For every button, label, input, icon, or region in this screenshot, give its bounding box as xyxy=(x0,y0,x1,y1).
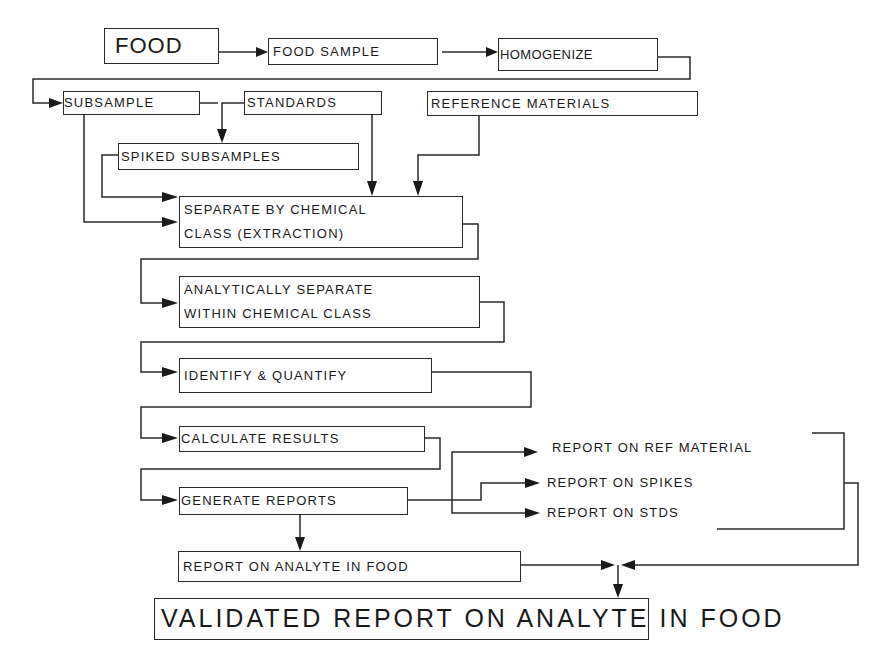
arrow-head-icon xyxy=(256,47,268,57)
arrow-head-icon xyxy=(49,98,63,108)
node-label: FOOD SAMPLE xyxy=(273,43,437,61)
node-label: REPORT ON ANALYTE IN FOOD xyxy=(183,558,520,576)
arrow-head-icon xyxy=(162,217,178,227)
node-food-sample: FOOD SAMPLE xyxy=(268,38,438,65)
arrow-head-icon xyxy=(162,495,178,505)
node-subsample: SUBSAMPLE xyxy=(63,91,200,115)
node-label-line2: CLASS (EXTRACTION) xyxy=(184,225,462,243)
node-label: STANDARDS xyxy=(247,94,381,112)
node-label: SUBSAMPLE xyxy=(64,94,199,112)
arrow-head-icon xyxy=(162,298,178,308)
node-label: HOMOGENIZE xyxy=(500,46,657,64)
node-homogenize: HOMOGENIZE xyxy=(498,38,658,71)
node-label-line1: ANALYTICALLY SEPARATE xyxy=(184,281,479,299)
node-report-on-spikes: REPORT ON SPIKES xyxy=(547,475,694,490)
node-label: IDENTIFY & QUANTIFY xyxy=(184,367,431,385)
arrow-head-icon xyxy=(367,181,377,196)
arrow-head-icon xyxy=(525,478,540,488)
edge-generate-to-spikes xyxy=(408,483,528,500)
node-label-line2: WITHIN CHEMICAL CLASS xyxy=(184,305,479,323)
edge-reference-to-separate xyxy=(418,115,479,183)
node-analytically-separate: ANALYTICALLY SEPARATE WITHIN CHEMICAL CL… xyxy=(179,276,480,328)
arrow-head-icon xyxy=(217,129,227,143)
flowchart-diagram: FOOD FOOD SAMPLE HOMOGENIZE SUBSAMPLE ST… xyxy=(0,0,883,665)
node-label: FOOD xyxy=(115,31,218,61)
node-report-on-stds: REPORT ON STDS xyxy=(547,505,679,520)
node-separate-by-chemical-class: SEPARATE BY CHEMICAL CLASS (EXTRACTION) xyxy=(179,196,463,248)
node-generate-reports: GENERATE REPORTS xyxy=(179,487,408,515)
node-label: CALCULATE RESULTS xyxy=(181,430,424,448)
node-label-line1: SEPARATE BY CHEMICAL xyxy=(184,201,462,219)
node-label: VALIDATED REPORT ON ANALYTE IN FOOD xyxy=(161,602,648,636)
node-standards: STANDARDS xyxy=(244,91,382,115)
node-identify-quantify: IDENTIFY & QUANTIFY xyxy=(179,358,432,393)
node-label: REFERENCE MATERIALS xyxy=(431,95,697,113)
arrow-head-icon xyxy=(162,433,178,443)
arrow-head-icon xyxy=(413,181,423,196)
arrow-head-icon xyxy=(162,367,178,377)
node-label: SPIKED SUBSAMPLES xyxy=(121,148,358,166)
arrow-head-icon xyxy=(486,47,498,57)
node-food: FOOD xyxy=(104,28,219,64)
edge-standards-to-spiked xyxy=(222,103,244,131)
node-calculate-results: CALCULATE RESULTS xyxy=(179,426,425,452)
node-label: GENERATE REPORTS xyxy=(181,492,407,510)
arrow-head-icon xyxy=(613,584,623,598)
node-report-on-analyte: REPORT ON ANALYTE IN FOOD xyxy=(178,551,521,582)
arrow-head-icon xyxy=(162,192,178,202)
arrow-head-icon xyxy=(524,447,538,457)
arrow-head-icon xyxy=(295,537,305,551)
node-spiked-subsamples: SPIKED SUBSAMPLES xyxy=(118,143,359,170)
arrow-head-icon xyxy=(601,560,615,570)
node-report-on-ref-material: REPORT ON REF MATERIAL xyxy=(552,440,753,455)
arrow-head-icon xyxy=(621,560,635,570)
node-reference-materials: REFERENCE MATERIALS xyxy=(427,91,698,116)
arrow-head-icon xyxy=(525,508,540,518)
edge-reports-to-validated xyxy=(633,483,858,565)
node-validated-report: VALIDATED REPORT ON ANALYTE IN FOOD xyxy=(154,598,649,640)
